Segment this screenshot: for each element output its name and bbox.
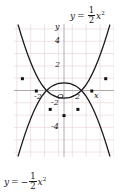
bottom-equation-equals: = (11, 177, 19, 187)
point-marker (104, 77, 107, 80)
y-tick-neg4: -4 (51, 122, 59, 131)
top-equation-fraction: 1 2 (88, 6, 95, 25)
curve-positive-parabola (18, 25, 110, 98)
y-axis-label: y (55, 22, 60, 31)
curves-layer (14, 24, 114, 157)
origin-label: O (57, 92, 64, 101)
bottom-equation-numerator: 1 (29, 172, 36, 181)
point-marker (21, 77, 24, 80)
bottom-equation-lhs: y (4, 177, 9, 187)
bottom-equation-sign: − (21, 177, 29, 187)
top-equation-equals: = (77, 11, 85, 21)
x-tick-2: 2 (75, 92, 80, 101)
top-equation-numerator: 1 (88, 6, 95, 15)
top-equation-label: y= 1 2 x2 (70, 6, 105, 25)
top-equation-exponent: 2 (101, 10, 105, 16)
y-tick-2: 2 (55, 60, 60, 69)
bottom-equation-fraction: 1 2 (29, 172, 36, 191)
bottom-equation-exponent: 2 (43, 176, 47, 182)
x-tick-neg2: -2 (34, 92, 42, 101)
x-axis-label: x (94, 91, 99, 100)
point-marker (63, 114, 66, 117)
y-tick-4: 4 (55, 36, 60, 45)
point-marker (90, 90, 93, 93)
bottom-equation-denominator: 2 (29, 181, 36, 191)
plot-area: y 4 2 -2 -4 -2 2 x O (14, 24, 114, 157)
bottom-equation-label: y=− 1 2 x2 (4, 172, 46, 191)
top-equation-lhs: y (70, 11, 75, 21)
point-marker (49, 108, 52, 111)
parabola-figure: y= 1 2 x2 (0, 0, 125, 194)
point-marker (76, 108, 79, 111)
